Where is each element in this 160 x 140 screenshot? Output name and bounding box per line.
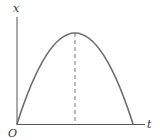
- origin-label: O: [8, 128, 17, 139]
- y-axis-label: x: [13, 3, 19, 14]
- position-time-graph: x t O: [0, 0, 160, 140]
- graph-canvas: [0, 0, 160, 140]
- x-axis-label: t: [147, 119, 151, 130]
